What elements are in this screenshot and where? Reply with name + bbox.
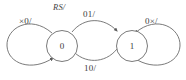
transition-label-arc-bottom: 10/ xyxy=(84,64,96,73)
state-label-0: 0 xyxy=(54,42,70,51)
arc-top-path xyxy=(72,21,117,32)
transition-label-loop-left: ×0/ xyxy=(19,17,32,26)
transition-arc-top xyxy=(72,21,117,32)
legend-label-rs: RS/ xyxy=(53,3,65,12)
transition-label-arc-top: 01/ xyxy=(83,10,95,19)
state-diagram-figure: RS/ ×0/ 01/ 10/ 0×/ 0 1 xyxy=(0,0,186,80)
arc-bottom-path xyxy=(72,49,117,60)
transition-loop-left xyxy=(7,24,53,65)
transition-label-loop-right: 0×/ xyxy=(145,17,158,26)
state-label-1: 1 xyxy=(124,42,140,51)
loop-left-path xyxy=(7,24,53,65)
transition-arc-bottom xyxy=(72,49,117,60)
